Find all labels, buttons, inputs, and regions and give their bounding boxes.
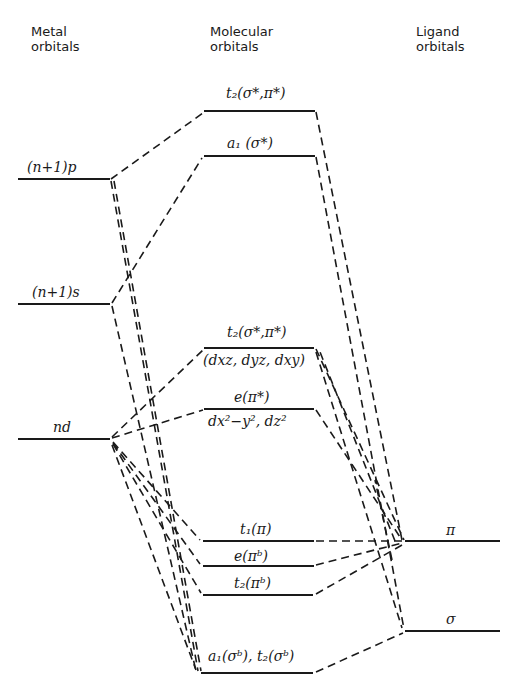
label-mo-t2-antibond-d: t₂(σ*,π*) [227,324,286,340]
label-metal-n1s: (n+1)s [32,284,80,300]
label-mo-t1: t₁(π) [240,521,271,537]
sublabel-mo-e-antibond: dx²−y², dz² [208,413,287,429]
label-metal-nd: nd [53,419,71,435]
label-mo-e-antibond: e(π*) [234,389,269,405]
label-mo-t2-antibond-top: t₂(σ*,π*) [226,85,285,101]
label-mo-e-bond: e(πᵇ) [234,548,268,564]
label-mo-a1-t2-bond-sigma: a₁(σᵇ), t₂(σᵇ) [208,648,294,664]
label-ligand-sigma: σ [446,611,456,627]
label-metal-n1p: (n+1)p [27,159,77,175]
sublabel-mo-t2-antibond-d: (dxz, dyz, dxy) [203,352,305,368]
label-ligand-pi: π [446,522,455,538]
label-mo-t2-bond-pi: t₂(πᵇ) [234,575,271,591]
label-mo-a1-antibond: a₁ (σ*) [227,135,273,151]
